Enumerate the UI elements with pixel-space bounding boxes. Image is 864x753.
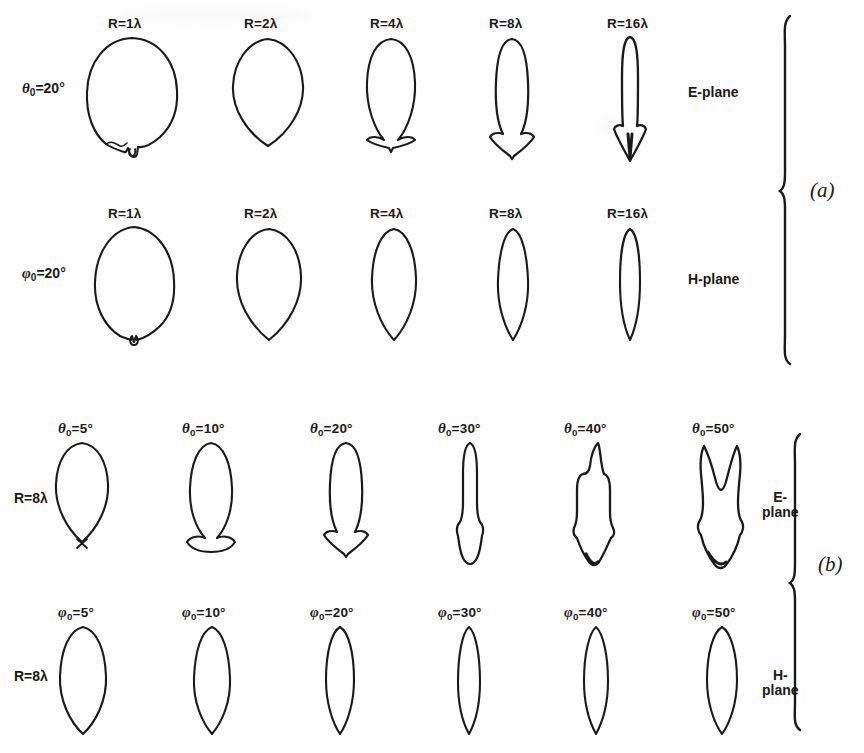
phi-subscript: 0 <box>573 611 579 622</box>
pattern-a-h-4 <box>614 226 646 344</box>
cell-label-a-e-1: R=2λ <box>244 16 277 31</box>
theta-value: =20° <box>324 421 353 436</box>
brace-part-a <box>780 14 814 366</box>
phi-value: =30° <box>453 605 482 620</box>
pattern-a-e-4 <box>608 34 652 162</box>
pattern-b-h-3 <box>452 624 486 736</box>
phi-symbol: φ <box>438 604 447 620</box>
plane-label-a-h: H-plane <box>688 272 739 287</box>
theta-symbol: θ <box>310 420 318 436</box>
theta-symbol: θ <box>692 420 700 436</box>
scan-artifact <box>120 8 310 22</box>
phi-symbol: φ <box>310 604 319 620</box>
pattern-b-e-2 <box>318 440 374 558</box>
cell-label-b-e-5: θ0=50° <box>692 420 735 437</box>
row-label-b-h: R=8λ <box>14 668 48 684</box>
cell-label-a-h-0: R=1λ <box>108 206 141 221</box>
theta-value: =40° <box>578 421 607 436</box>
theta-value: =5° <box>72 421 93 436</box>
cell-label-b-h-2: φ0=20° <box>310 604 354 621</box>
theta-value: =10° <box>196 421 225 436</box>
pattern-a-h-0 <box>88 224 180 348</box>
pattern-b-h-4 <box>578 624 614 736</box>
theta-symbol: θ <box>438 420 446 436</box>
pattern-a-h-2 <box>366 226 422 344</box>
theta-subscript: 0 <box>66 427 72 438</box>
cell-label-b-e-4: θ0=40° <box>564 420 607 437</box>
phi-symbol: φ <box>182 604 191 620</box>
cell-label-a-h-2: R=4λ <box>370 206 403 221</box>
pattern-b-e-5 <box>692 440 762 570</box>
pattern-b-h-1 <box>188 624 236 736</box>
cell-label-a-h-4: R=16λ <box>607 206 648 221</box>
cell-label-a-e-3: R=8λ <box>489 16 522 31</box>
theta-subscript: 0 <box>700 427 706 438</box>
row-label-a-e: θ0=20° <box>22 80 65 97</box>
theta-subscript: 0 <box>446 427 452 438</box>
pattern-b-e-4 <box>568 440 624 568</box>
theta-subscript: 0 <box>190 427 196 438</box>
part-label-a: (a) <box>810 178 835 203</box>
pattern-b-e-0 <box>50 440 114 550</box>
phi-value: =20° <box>325 605 354 620</box>
phi-subscript: 0 <box>319 611 325 622</box>
theta-value: =50° <box>706 421 735 436</box>
figure-canvas: θ0=20° R=1λ R=2λ R=4λ R=8λ R=16λ E-plane <box>0 0 864 753</box>
cell-label-a-e-4: R=16λ <box>607 16 648 31</box>
theta-symbol: θ <box>564 420 572 436</box>
plane-label-a-e: E-plane <box>688 85 739 100</box>
phi-symbol: φ <box>564 604 573 620</box>
theta-value: =20° <box>35 80 64 96</box>
phi-subscript: 0 <box>447 611 453 622</box>
pattern-a-h-3 <box>492 226 534 344</box>
brace-part-b <box>790 432 824 732</box>
pattern-b-h-2 <box>320 624 360 736</box>
cell-label-a-h-1: R=2λ <box>244 206 277 221</box>
cell-label-b-h-5: φ0=50° <box>692 604 736 621</box>
cell-label-b-h-1: φ0=10° <box>182 604 226 621</box>
pattern-b-h-5 <box>700 624 744 736</box>
plane-line-1: H- <box>773 667 788 683</box>
cell-label-b-e-3: θ0=30° <box>438 420 481 437</box>
phi-symbol: φ <box>58 604 67 620</box>
cell-label-b-e-2: θ0=20° <box>310 420 353 437</box>
theta-symbol: θ <box>182 420 190 436</box>
row-label-b-e: R=8λ <box>14 490 48 506</box>
pattern-a-e-2 <box>358 36 424 156</box>
row-label-a-h: φ0=20° <box>22 265 66 282</box>
phi-symbol: φ <box>22 265 31 281</box>
plane-line-1: E- <box>773 489 787 505</box>
phi-subscript: 0 <box>67 611 73 622</box>
pattern-b-e-1 <box>180 440 242 556</box>
phi-value: =10° <box>197 605 226 620</box>
cell-label-b-h-4: φ0=40° <box>564 604 608 621</box>
theta-subscript: 0 <box>318 427 324 438</box>
theta-value: =30° <box>452 421 481 436</box>
pattern-a-e-1 <box>228 36 308 150</box>
phi-subscript: 0 <box>701 611 707 622</box>
cell-label-a-e-2: R=4λ <box>370 16 403 31</box>
pattern-a-e-0 <box>80 34 184 162</box>
phi-subscript: 0 <box>31 272 37 283</box>
part-label-b: (b) <box>818 552 843 577</box>
phi-value: =40° <box>579 605 608 620</box>
theta-subscript: 0 <box>30 87 36 98</box>
theta-symbol: θ <box>58 420 66 436</box>
cell-label-b-e-0: θ0=5° <box>58 420 93 437</box>
theta-symbol: θ <box>22 80 30 96</box>
cell-label-b-h-3: φ0=30° <box>438 604 482 621</box>
phi-value: =5° <box>73 605 94 620</box>
cell-label-b-h-0: φ0=5° <box>58 604 94 621</box>
pattern-b-e-3 <box>450 440 490 566</box>
phi-value: =50° <box>707 605 736 620</box>
pattern-a-h-1 <box>232 226 306 344</box>
theta-subscript: 0 <box>572 427 578 438</box>
cell-label-a-h-3: R=8λ <box>489 206 522 221</box>
cell-label-b-e-1: θ0=10° <box>182 420 225 437</box>
phi-subscript: 0 <box>191 611 197 622</box>
phi-symbol: φ <box>692 604 701 620</box>
pattern-b-h-0 <box>54 624 112 736</box>
cell-label-a-e-0: R=1λ <box>108 16 141 31</box>
phi-value: =20° <box>36 265 65 281</box>
pattern-a-e-3 <box>484 36 540 160</box>
